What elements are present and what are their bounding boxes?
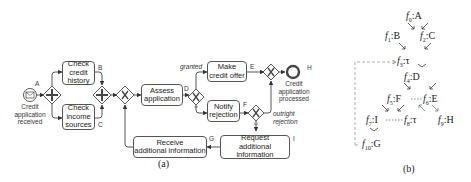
caption-a: (a) bbox=[158, 158, 169, 169]
task-check-income-sources[interactable]: Check income sources bbox=[62, 104, 95, 130]
edge-label-outright-rejection: outright rejection bbox=[273, 110, 298, 125]
node-f9: f9:H bbox=[438, 114, 454, 127]
marker-i: I bbox=[293, 135, 295, 143]
task-receive-additional-information[interactable]: Receive additional information bbox=[133, 136, 207, 158]
task-notify-rejection[interactable]: Notify rejection bbox=[207, 100, 240, 122]
node-f7: f7:I bbox=[366, 114, 378, 127]
node-f0: f0:A bbox=[406, 10, 422, 23]
node-f3: f3:τ bbox=[397, 55, 410, 68]
marker-g: G bbox=[209, 135, 214, 143]
marker-d: D bbox=[184, 85, 189, 93]
node-f10: f10:G bbox=[362, 138, 381, 151]
node-f6: f6:E bbox=[423, 93, 438, 106]
task-request-additional-information[interactable]: Request additional information bbox=[220, 135, 290, 159]
edge-label-granted: granted bbox=[180, 63, 202, 71]
task-check-credit-history[interactable]: Check credit history bbox=[62, 61, 95, 85]
end-event-label: Credit application processed bbox=[278, 80, 310, 103]
node-f4: f4:D bbox=[404, 71, 420, 84]
task-assess-application[interactable]: Assess application bbox=[141, 84, 183, 106]
node-f1: f1:B bbox=[385, 30, 400, 43]
marker-e: E bbox=[250, 63, 254, 71]
task-make-credit-offer[interactable]: Make credit offer bbox=[207, 61, 247, 82]
start-event-icon bbox=[24, 89, 37, 102]
node-f2: f2:C bbox=[420, 30, 435, 43]
marker-b: B bbox=[98, 64, 102, 72]
marker-f: F bbox=[243, 101, 247, 109]
node-f8: f8:τ bbox=[404, 114, 417, 127]
marker-a: A bbox=[35, 80, 39, 88]
marker-c: C bbox=[98, 121, 103, 129]
marker-h: H bbox=[307, 64, 312, 72]
start-event-label: Credit application received bbox=[14, 103, 46, 126]
node-f5: f5:F bbox=[387, 93, 401, 106]
caption-b: (b) bbox=[403, 163, 415, 174]
end-event-icon bbox=[287, 66, 299, 78]
